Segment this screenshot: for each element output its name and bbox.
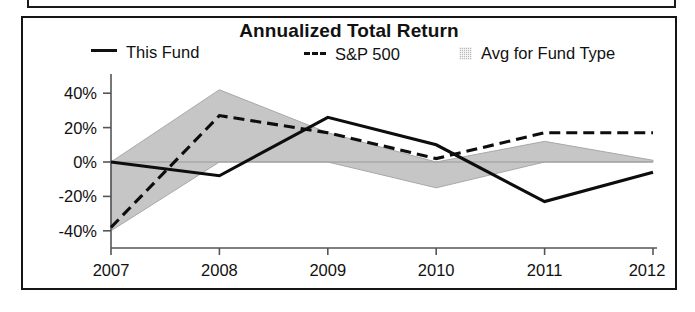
- return-line-chart: -40%-20%0%20%40% 20072008200920102011201…: [23, 70, 675, 288]
- dashed-line-swatch-icon: [304, 52, 326, 55]
- chart-legend: This Fund S&P 500 Avg for Fund Type: [23, 44, 675, 68]
- avg-for-fund-type-band: [111, 90, 653, 231]
- y-axis-tick-label: 0%: [73, 153, 97, 171]
- legend-label-avg-for-fund-type: Avg for Fund Type: [481, 45, 615, 62]
- legend-label-this-fund: This Fund: [126, 44, 199, 61]
- legend-item-avg-for-fund-type: Avg for Fund Type: [459, 45, 615, 62]
- legend-item-sp-500: S&P 500: [304, 46, 400, 63]
- y-axis-tick-label: -20%: [58, 187, 97, 205]
- x-axis-tick-label: 2011: [527, 261, 562, 279]
- chart-title: Annualized Total Return: [23, 20, 675, 42]
- x-axis-tick-label: 2007: [93, 261, 130, 279]
- legend-label-sp-500: S&P 500: [335, 46, 400, 63]
- x-axis-tick-label: 2012: [629, 261, 666, 279]
- shaded-area-swatch-icon: [459, 47, 472, 60]
- y-axis-tick-label: 40%: [64, 84, 97, 102]
- y-axis-tick-labels: -40%-20%0%20%40%: [58, 84, 97, 240]
- x-axis-tick-label: 2009: [309, 261, 346, 279]
- adjacent-panel-fragment: [27, 0, 676, 8]
- band-polygon: [111, 90, 653, 231]
- x-axis-tick-label: 2010: [418, 261, 455, 279]
- x-axis-tick-label: 2008: [201, 261, 238, 279]
- annualized-total-return-panel: Annualized Total Return This Fund S&P 50…: [21, 16, 677, 290]
- legend-item-this-fund: This Fund: [91, 44, 199, 61]
- y-axis-tick-label: 20%: [64, 119, 97, 137]
- plot-area: -40%-20%0%20%40% 20072008200920102011201…: [23, 70, 675, 288]
- y-axis-tick-label: -40%: [58, 222, 97, 240]
- solid-line-swatch-icon: [91, 49, 117, 52]
- x-axis-tick-labels: 200720082009201020112012YTD: [93, 261, 675, 279]
